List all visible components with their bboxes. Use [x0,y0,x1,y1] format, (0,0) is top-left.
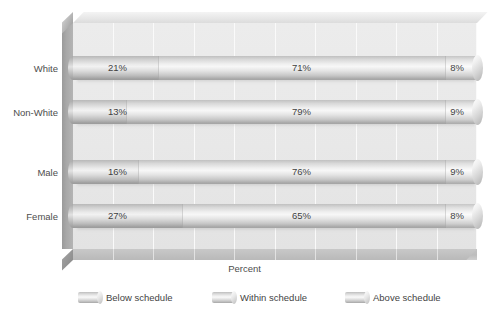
value-below-schedule: 21% [75,56,160,80]
floor-gridline-50 [275,249,276,260]
plot-floor [73,249,477,260]
legend-label-below-schedule: Below schedule [106,292,173,303]
legend-item-above-schedule[interactable]: Above schedule [345,288,441,306]
legend-swatch-within-schedule-icon [212,292,234,303]
floor-gridline-80 [396,249,397,260]
plot-top-deck [73,12,488,23]
bar-right-cap [472,159,483,185]
value-within-schedule: 79% [158,100,445,124]
floor-gridline-60 [315,249,316,260]
value-above-schedule: 8% [441,56,473,80]
category-label-male: Male [0,167,58,178]
legend-label-above-schedule: Above schedule [373,292,441,303]
value-above-schedule: 8% [441,204,473,228]
value-within-schedule: 71% [158,56,445,80]
legend-label-within-schedule: Within schedule [240,292,307,303]
floor-gridline-40 [234,249,235,260]
plot-area: 21% 71% 8% White 13% 79% 9% Non-White [62,12,477,260]
category-label-female: Female [0,211,58,222]
category-label-non-white: Non-White [0,107,58,118]
value-above-schedule: 9% [441,100,473,124]
category-label-white: White [0,63,58,74]
bar-right-cap [472,99,483,125]
bar-right-cap [472,55,483,81]
bar-row-white[interactable]: 21% 71% 8% [73,56,477,80]
floor-gridline-10 [113,249,114,260]
value-within-schedule: 76% [158,160,445,184]
value-within-schedule: 65% [158,204,445,228]
x-axis-title: Percent [0,263,489,274]
value-below-schedule: 27% [75,204,160,228]
bar-row-male[interactable]: 16% 76% 9% [73,160,477,184]
floor-gridline-20 [153,249,154,260]
floor-gridline-30 [194,249,195,260]
chart-legend: Below schedule Within schedule Above sch… [0,288,489,310]
legend-item-within-schedule[interactable]: Within schedule [212,288,307,306]
bar-row-non-white[interactable]: 13% 79% 9% [73,100,477,124]
value-above-schedule: 9% [441,160,473,184]
legend-swatch-below-schedule-icon [78,292,100,303]
bar-row-female[interactable]: 27% 65% 8% [73,204,477,228]
floor-gridline-70 [356,249,357,260]
legend-item-below-schedule[interactable]: Below schedule [78,288,173,306]
bar-right-cap [472,203,483,229]
value-below-schedule: 16% [75,160,160,184]
legend-swatch-above-schedule-icon [345,292,367,303]
stacked-bar-chart: 21% 71% 8% White 13% 79% 9% Non-White [0,0,489,320]
value-below-schedule: 13% [75,100,160,124]
floor-gridline-90 [437,249,438,260]
